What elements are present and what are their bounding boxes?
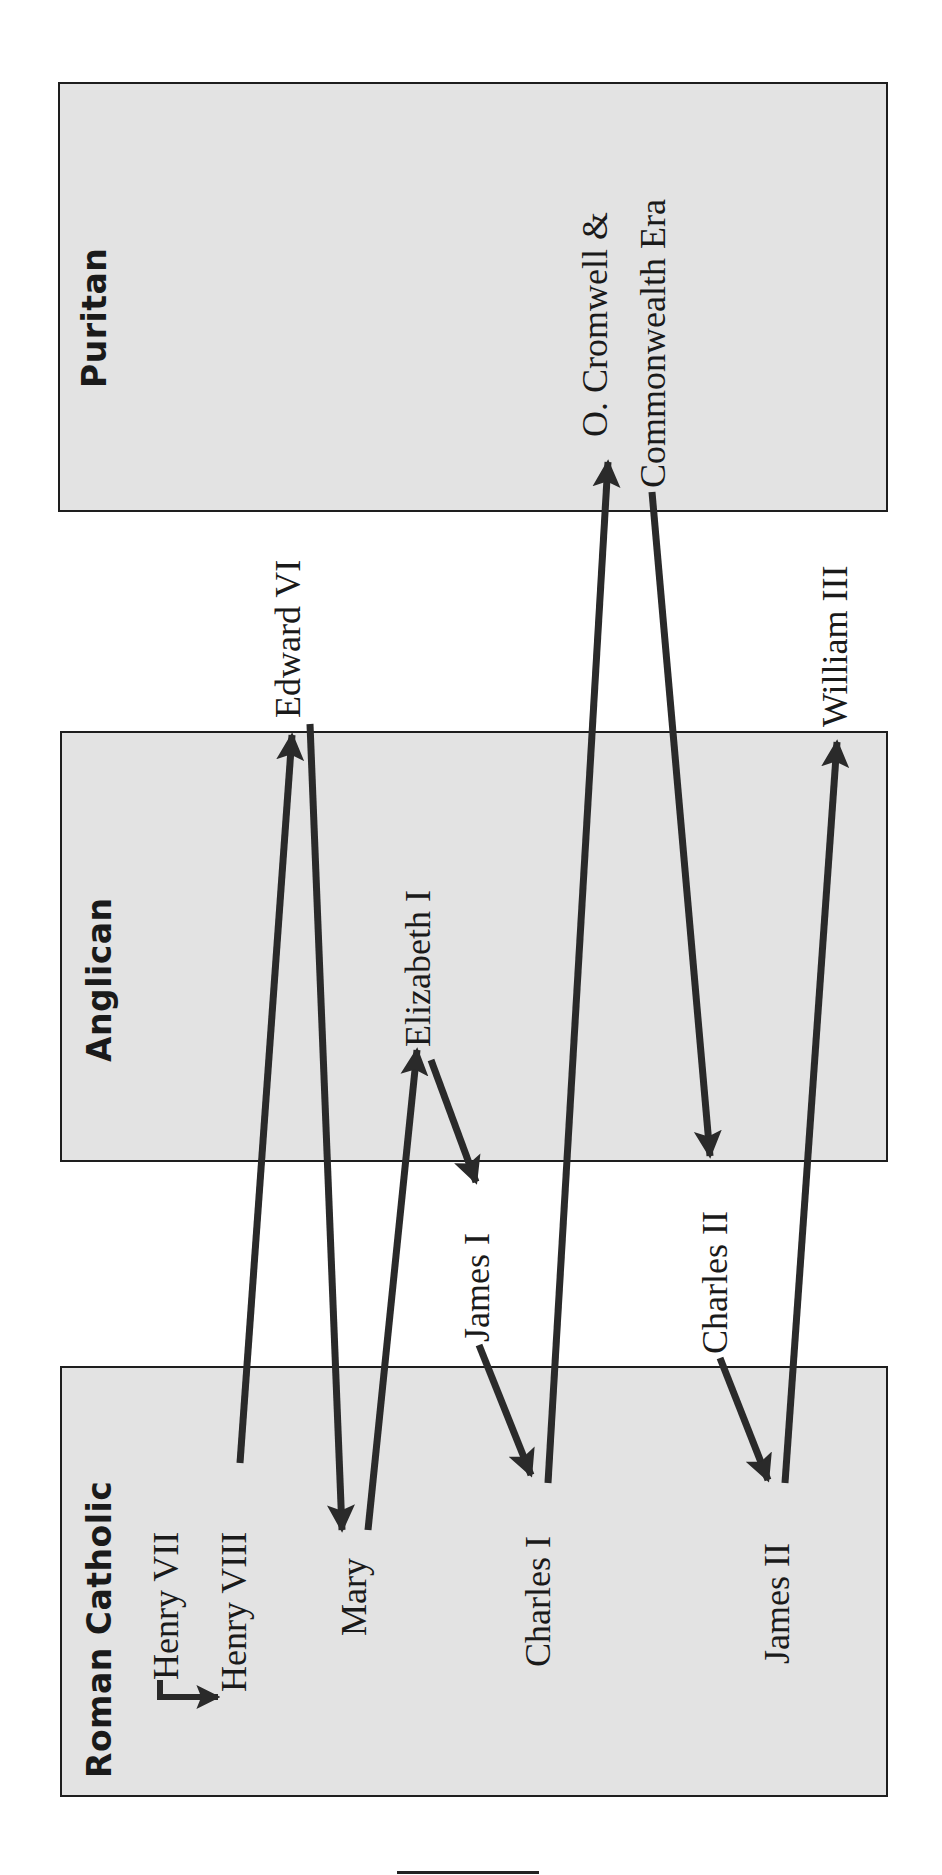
succession-arrows <box>0 0 942 1875</box>
arrow-henry-viii-to-edward-vi <box>240 735 292 1463</box>
arrow-charles-i-to-cromwell <box>548 462 608 1483</box>
arrow-james-ii-to-william-iii <box>785 742 837 1483</box>
arrow-mary-to-elizabeth-i <box>368 1050 417 1530</box>
arrow-henry-vii-to-henry-viii <box>160 1680 218 1697</box>
arrow-charles-ii-to-james-ii <box>720 1358 768 1480</box>
page-footer-rule <box>397 1871 539 1874</box>
arrow-edward-vi-to-mary <box>310 724 342 1530</box>
arrow-james-i-to-charles-i <box>479 1345 531 1475</box>
arrow-elizabeth-i-to-james-i <box>431 1060 476 1182</box>
arrow-commonwealth-to-charles-ii <box>652 492 710 1156</box>
